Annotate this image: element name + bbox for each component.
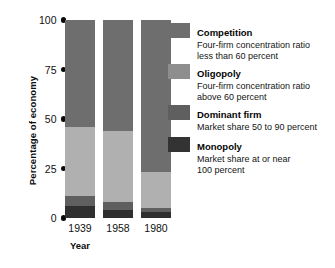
legend-title: Dominant firm: [197, 109, 261, 120]
legend-desc-line2: 100 percent: [197, 165, 333, 176]
y-tick-label: 75: [45, 64, 57, 76]
legend-desc-line2: above 60 percent: [197, 92, 333, 103]
legend-description: Four-firm concentration ratio above 60 p…: [197, 81, 333, 103]
legend-desc-line2: less than 60 percent: [197, 51, 333, 62]
legend-text-oligopoly: Oligopoly Four-firm concentration ratio …: [197, 63, 333, 103]
y-axis-tick-50: 50: [18, 113, 66, 125]
y-axis-tick-25: 25: [18, 163, 66, 175]
legend-swatch-dominant-firm: [168, 105, 190, 120]
legend-swatch-competition: [168, 23, 190, 38]
bar-segment-competition: [103, 20, 133, 131]
legend-title: Oligopoly: [197, 68, 241, 79]
bar-segment-oligopoly: [103, 131, 133, 202]
x-axis-label-1980: 1980: [133, 222, 179, 234]
legend-text-dominant-firm: Dominant firm Market share 50 to 90 perc…: [197, 104, 333, 133]
legend-description: Market share 50 to 90 percent: [197, 122, 333, 133]
legend-description: Four-firm concentration ratio less than …: [197, 40, 333, 62]
legend-title: Monopoly: [197, 141, 242, 152]
legend-swatch-monopoly: [168, 137, 190, 152]
stacked-bar-chart-figure: Percentage of economy 100 75 50 25 0: [0, 0, 335, 268]
legend-text-competition: Competition Four-firm concentration rati…: [197, 22, 333, 62]
legend-desc-line1: Four-firm concentration ratio: [197, 40, 333, 51]
legend-description: Market share at or near 100 percent: [197, 154, 333, 176]
plot-area: [65, 20, 175, 218]
legend-swatch-oligopoly: [168, 64, 190, 79]
bar-segment-dominant-firm: [103, 202, 133, 210]
bar-segment-competition: [65, 20, 95, 127]
y-tick-label: 0: [51, 212, 57, 224]
legend-text-monopoly: Monopoly Market share at or near 100 per…: [197, 136, 333, 176]
legend-desc-line1: Market share at or near: [197, 154, 333, 165]
bar-segment-monopoly: [103, 210, 133, 218]
legend-title: Competition: [197, 27, 252, 38]
bar-segment-competition: [141, 20, 171, 172]
bar-1939: [65, 20, 95, 218]
y-tick-label: 25: [45, 163, 57, 175]
bar-segment-monopoly: [141, 212, 171, 218]
y-axis-tick-75: 75: [18, 64, 66, 76]
y-tick-label: 50: [45, 113, 57, 125]
y-axis-tick-100: 100: [18, 14, 66, 26]
bar-segment-oligopoly: [65, 127, 95, 196]
bar-segment-dominant-firm: [65, 196, 95, 206]
bar-1958: [103, 20, 133, 218]
x-axis-title: Year: [57, 240, 103, 251]
bar-segment-monopoly: [65, 206, 95, 218]
legend-desc-line1: Four-firm concentration ratio: [197, 81, 333, 92]
legend-desc-line1: Market share 50 to 90 percent: [197, 122, 333, 133]
bar-1980: [141, 20, 171, 218]
bar-segment-oligopoly: [141, 172, 171, 208]
y-tick-label: 100: [39, 14, 57, 26]
